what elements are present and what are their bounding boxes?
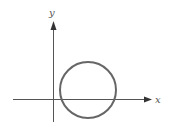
circle-curve <box>60 62 116 118</box>
x-axis <box>13 97 152 103</box>
y-axis-label: y <box>48 7 55 18</box>
y-axis-arrow-icon <box>51 21 57 30</box>
diagram-canvas: x y <box>0 0 174 128</box>
y-axis <box>51 21 57 122</box>
x-axis-label: x <box>155 94 161 105</box>
x-axis-arrow-icon <box>144 97 152 103</box>
